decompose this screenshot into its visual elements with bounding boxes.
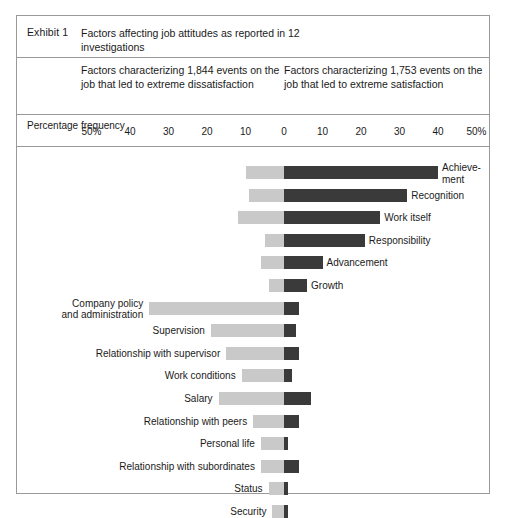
chart-row: Work itself <box>17 211 489 224</box>
chart-row-label: Personal life <box>200 438 255 450</box>
chart-row: Advancement <box>17 256 489 269</box>
chart-row-label: Achieve-ment <box>442 162 481 185</box>
axis-tick-right-40: 40 <box>432 126 443 137</box>
bar-dissatisfaction <box>149 302 284 315</box>
bar-satisfaction <box>284 437 288 450</box>
axis-tick-right-20: 20 <box>355 126 366 137</box>
bar-dissatisfaction <box>219 392 284 405</box>
axis-tick-right-50: 50% <box>466 126 486 137</box>
chart-row: Recognition <box>17 189 489 202</box>
bar-satisfaction <box>284 189 407 202</box>
bar-dissatisfaction <box>269 482 284 495</box>
axis-tick-right-30: 30 <box>394 126 405 137</box>
chart-row: Relationship with subordinates <box>17 460 489 473</box>
bar-dissatisfaction <box>249 189 284 202</box>
chart-row: Growth <box>17 279 489 292</box>
axis-tick-right-10: 10 <box>317 126 328 137</box>
bar-satisfaction <box>284 482 288 495</box>
chart-row: Company policyand administration <box>17 302 489 315</box>
chart-row: Work conditions <box>17 369 489 382</box>
chart-row-label: Status <box>234 483 262 495</box>
chart-row-label: Relationship with subordinates <box>119 461 255 473</box>
bar-satisfaction <box>284 166 438 179</box>
bar-dissatisfaction <box>211 324 284 337</box>
axis-tick-left-30: 30 <box>163 126 174 137</box>
axis-tick-left-20: 20 <box>201 126 212 137</box>
bar-dissatisfaction <box>253 415 284 428</box>
chart-row-label: Supervision <box>153 325 205 337</box>
bar-satisfaction <box>284 279 307 292</box>
chart-row-label: Relationship with supervisor <box>96 348 221 360</box>
chart-row-label: Responsibility <box>369 235 431 247</box>
exhibit-panel: Exhibit 1 Factors affecting job attitude… <box>16 15 490 494</box>
bar-dissatisfaction <box>265 234 284 247</box>
chart-row: Achieve-ment <box>17 166 489 179</box>
chart-row-label: Work conditions <box>165 370 236 382</box>
bar-dissatisfaction <box>269 279 284 292</box>
bar-dissatisfaction <box>246 166 285 179</box>
axis-tick-left-40: 40 <box>124 126 135 137</box>
chart-row: Status <box>17 482 489 495</box>
chart-row-label: Relationship with peers <box>144 416 247 428</box>
chart-row: Responsibility <box>17 234 489 247</box>
chart-row: Relationship with peers <box>17 415 489 428</box>
bar-satisfaction <box>284 302 299 315</box>
chart-row: Supervision <box>17 324 489 337</box>
bar-satisfaction <box>284 415 299 428</box>
bar-satisfaction <box>284 460 299 473</box>
bar-dissatisfaction <box>261 437 284 450</box>
bar-satisfaction <box>284 324 296 337</box>
bar-dissatisfaction <box>261 460 284 473</box>
chart-row-label: Recognition <box>411 190 464 202</box>
bar-satisfaction <box>284 505 288 518</box>
chart-row-label: Company policyand administration <box>62 298 144 321</box>
bar-dissatisfaction <box>226 347 284 360</box>
bar-dissatisfaction <box>242 369 284 382</box>
axis-tick-left-10: 10 <box>240 126 251 137</box>
bar-dissatisfaction <box>261 256 284 269</box>
chart-row-label: Salary <box>184 393 212 405</box>
axis-tick-left-0: 0 <box>281 126 287 137</box>
bar-satisfaction <box>284 234 365 247</box>
chart-row-label: Advancement <box>327 257 388 269</box>
bar-satisfaction <box>284 211 380 224</box>
chart-row: Security <box>17 505 489 518</box>
bar-satisfaction <box>284 347 299 360</box>
bar-dissatisfaction <box>238 211 284 224</box>
chart-row: Personal life <box>17 437 489 450</box>
chart-plot-area: Achieve-mentRecognitionWork itselfRespon… <box>17 146 489 491</box>
bar-satisfaction <box>284 369 292 382</box>
axis-tick-left-50: 50% <box>81 126 101 137</box>
bar-dissatisfaction <box>272 505 284 518</box>
chart-row-label: Security <box>230 506 266 518</box>
bar-satisfaction <box>284 392 311 405</box>
chart-row: Relationship with supervisor <box>17 347 489 360</box>
chart-row-label: Work itself <box>384 212 431 224</box>
chart-row-label: Growth <box>311 280 343 292</box>
chart-row: Salary <box>17 392 489 405</box>
bar-satisfaction <box>284 256 323 269</box>
